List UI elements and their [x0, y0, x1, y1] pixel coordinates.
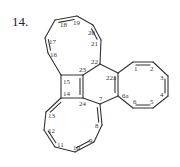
bond-6a-7: [100, 96, 118, 104]
atom-label-18: 18: [60, 21, 68, 29]
atom-label-17: 17: [49, 38, 57, 46]
atom-label-13: 13: [48, 112, 56, 120]
atom-label-6: 6: [133, 98, 137, 106]
atom-label-6a: 6a: [122, 92, 130, 100]
atom-label-4: 4: [160, 91, 164, 99]
atom-label-23: 23: [79, 66, 87, 74]
bond-13-12: [44, 112, 46, 130]
atom-label-8: 8: [95, 122, 99, 130]
atom-label-3: 3: [160, 74, 164, 82]
bond-22a-1: [118, 62, 133, 73]
atom-label-20: 20: [88, 29, 96, 37]
atom-label-15: 15: [63, 78, 71, 86]
atom-label-9: 9: [89, 137, 93, 145]
atom-label-layer: 1234566a7891011121314151617181920212222a…: [48, 19, 164, 152]
bond-16-17: [45, 38, 48, 53]
structure-diagram: 14. 1234566a7891011121314151617181920212…: [0, 0, 180, 167]
atom-label-2: 2: [150, 65, 154, 73]
atom-label-7: 7: [99, 95, 103, 103]
atom-label-16: 16: [50, 51, 58, 59]
atom-label-22: 22: [91, 58, 99, 66]
bond-22-22a: [100, 64, 118, 73]
atom-label-12: 12: [48, 127, 56, 135]
figure-number-label: 14.: [12, 14, 28, 30]
atom-label-21: 21: [91, 40, 99, 48]
atom-label-1: 1: [134, 65, 138, 73]
bond-8-7-inner: [97, 107, 98, 122]
atom-label-24: 24: [79, 100, 87, 108]
atom-label-14: 14: [63, 90, 71, 98]
atom-label-10: 10: [73, 144, 81, 152]
bond-14-13: [46, 98, 61, 112]
atom-label-11: 11: [57, 141, 64, 149]
atom-label-22a: 22a: [106, 74, 117, 82]
bond-17-18: [45, 20, 55, 38]
bond-21-22: [100, 40, 101, 64]
atom-label-5: 5: [150, 98, 154, 106]
atom-label-19: 19: [73, 19, 81, 27]
bond-8-7: [100, 104, 102, 125]
